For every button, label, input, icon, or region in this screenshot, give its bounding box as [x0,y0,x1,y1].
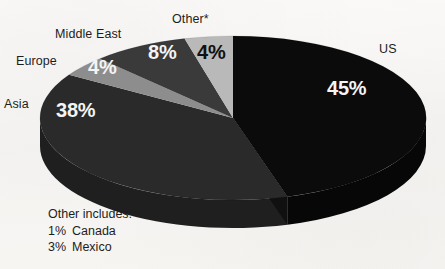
pie-chart-figure: Asia Europe Middle East Other* US 38% 4%… [0,0,445,269]
footnote-title: Other includes: [48,206,132,223]
slice-label-asia: Asia [4,98,29,111]
slice-label-europe: Europe [16,55,57,68]
footnote-mexico-label: Mexico [72,240,112,254]
footnote-canada-label: Canada [72,224,116,238]
footnote-item-mexico: 3%Mexico [48,239,132,256]
slice-label-other: Other* [172,13,209,26]
slice-value-europe: 4% [88,57,117,77]
footnote-block: Other includes: 1%Canada 3%Mexico [48,206,132,256]
slice-label-middle-east: Middle East [55,28,121,41]
slice-value-other: 4% [197,42,226,62]
slice-label-us: US [379,43,397,56]
footnote-mexico-percent: 3% [48,239,72,256]
slice-value-us: 45% [327,78,366,98]
slice-value-asia: 38% [56,100,95,120]
footnote-item-canada: 1%Canada [48,223,132,240]
footnote-canada-percent: 1% [48,223,72,240]
slice-value-middle-east: 8% [148,42,177,62]
